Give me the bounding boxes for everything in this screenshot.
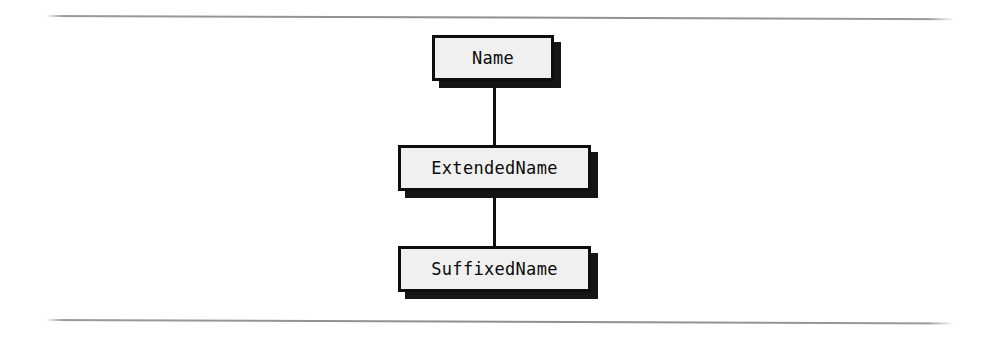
class-box-suffixedname-label: SuffixedName: [431, 261, 557, 278]
class-box-name-label: Name: [472, 50, 514, 67]
diagram-canvas: Name ExtendedName SuffixedName: [0, 0, 997, 342]
class-box-extendedname-label: ExtendedName: [431, 160, 557, 177]
connector-name-to-extendedname: [493, 81, 496, 145]
horizontal-rule-top: [45, 15, 955, 20]
horizontal-rule-bottom: [45, 319, 955, 324]
connector-extendedname-to-suffixedname: [493, 191, 496, 246]
class-box-suffixedname[interactable]: SuffixedName: [398, 246, 591, 292]
class-box-name[interactable]: Name: [432, 35, 554, 81]
class-box-extendedname[interactable]: ExtendedName: [398, 145, 591, 191]
